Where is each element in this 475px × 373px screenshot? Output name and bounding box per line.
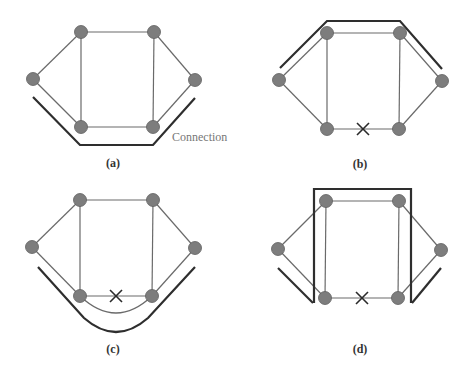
backup-path: [280, 21, 442, 69]
panel-a: Connection (a): [27, 26, 228, 171]
connection-label: Connection: [172, 130, 227, 144]
network-edges: [33, 32, 195, 127]
panel-d: (d): [272, 189, 448, 356]
network-nodes: [273, 27, 449, 136]
panel-caption-c: (c): [106, 342, 119, 356]
network-edges: [278, 201, 441, 298]
working-segment-left: [278, 268, 313, 303]
network-edges: [32, 200, 195, 296]
working-segment-right: [412, 268, 441, 303]
panel-c: (c): [26, 194, 202, 357]
panel-caption-a: (a): [106, 156, 120, 170]
panel-caption-b: (b): [353, 157, 368, 171]
panel-b: (b): [273, 21, 449, 171]
bypass-link: [80, 296, 152, 313]
panel-caption-d: (d): [353, 342, 368, 356]
network-edges: [279, 33, 442, 129]
connection-path: [33, 97, 195, 145]
network-recovery-figure: Connection (a) (b): [0, 0, 475, 373]
network-nodes: [26, 194, 202, 303]
